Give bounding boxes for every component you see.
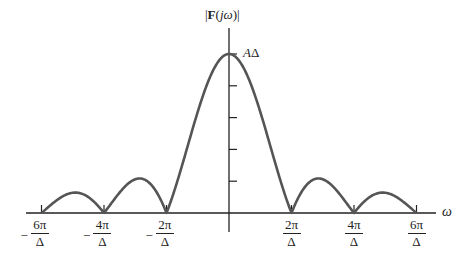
tick-denominator: Δ (161, 235, 169, 249)
tick-denominator: Δ (98, 235, 106, 249)
axes (26, 28, 436, 232)
tick-denominator: Δ (350, 235, 358, 249)
minus-sign: − (83, 228, 90, 244)
x-tick-label: 2πΔ (283, 218, 301, 249)
tick-numerator: 6π (410, 218, 423, 232)
tick-numerator: 2π (158, 218, 171, 232)
tick-denominator: Δ (287, 235, 295, 249)
tick-numerator: 2π (285, 218, 298, 232)
x-tick-label: 6πΔ (408, 218, 426, 249)
x-tick-label: −6πΔ (21, 218, 49, 249)
x-axis-label: ω (442, 204, 452, 220)
tick-denominator: Δ (36, 235, 44, 249)
tick-numerator: 4π (347, 218, 360, 232)
tick-numerator: 4π (96, 218, 109, 232)
sinc-magnitude-chart (0, 0, 470, 258)
tick-denominator: Δ (412, 235, 420, 249)
x-tick-label: −2πΔ (146, 218, 174, 249)
peak-label: AΔ (243, 45, 259, 61)
x-tick-label: 4πΔ (345, 218, 363, 249)
x-tick-label: −4πΔ (83, 218, 111, 249)
minus-sign: − (21, 228, 28, 244)
tick-numerator: 6π (33, 218, 46, 232)
minus-sign: − (146, 228, 153, 244)
y-axis-title: |F(jω)| (205, 7, 240, 23)
